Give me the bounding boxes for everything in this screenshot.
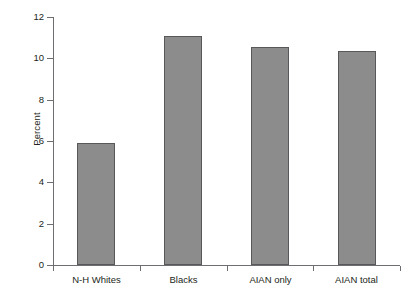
bar <box>77 143 115 265</box>
bar <box>251 47 289 265</box>
y-axis-tick <box>47 58 53 59</box>
y-axis-tick <box>47 141 53 142</box>
x-axis-tick-label: AIAN total <box>313 274 400 286</box>
x-axis-tick-label: Blacks <box>140 274 227 286</box>
x-axis-tick-label: AIAN only <box>227 274 314 286</box>
y-axis-tick <box>47 17 53 18</box>
bar-chart: Percent 024681012 N-H WhitesBlacksAIAN o… <box>0 0 412 300</box>
y-axis-tick-label: 12 <box>4 12 44 22</box>
y-axis-line <box>53 17 54 266</box>
x-axis-tick <box>227 266 228 271</box>
x-axis-tick <box>140 266 141 271</box>
y-axis-tick-label: 2 <box>4 219 44 229</box>
x-axis-tick <box>313 266 314 271</box>
x-axis-tick <box>53 266 54 271</box>
y-axis-tick <box>47 182 53 183</box>
x-axis-tick-label: N-H Whites <box>53 274 140 286</box>
y-axis-tick-label: 6 <box>4 136 44 146</box>
x-axis-tick <box>400 266 401 271</box>
y-axis-tick-label: 0 <box>4 260 44 270</box>
y-axis-title: Percent <box>31 99 47 159</box>
y-axis-tick-label: 8 <box>4 95 44 105</box>
y-axis-tick <box>47 100 53 101</box>
y-axis-tick-label: 10 <box>4 53 44 63</box>
bar <box>164 36 202 265</box>
bar <box>338 51 376 265</box>
y-axis-tick-label: 4 <box>4 177 44 187</box>
y-axis-tick <box>47 224 53 225</box>
